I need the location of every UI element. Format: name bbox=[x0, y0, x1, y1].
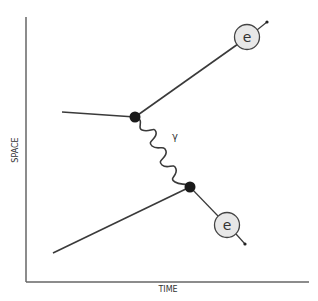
vertex-upper bbox=[130, 112, 141, 123]
y-axis-label: SPACE bbox=[11, 137, 20, 162]
electron-label-lower: e bbox=[223, 217, 232, 233]
incoming-electron-upper bbox=[62, 112, 135, 117]
arrow-tip-upper bbox=[265, 20, 268, 23]
arrow-tip-lower bbox=[243, 242, 246, 245]
feynman-diagram: e e γ SPACE TIME bbox=[0, 0, 318, 301]
outgoing-electron-lower bbox=[190, 187, 218, 216]
photon-label: γ bbox=[172, 131, 178, 142]
outgoing-electron-lower-tail bbox=[236, 234, 245, 244]
x-axis-label: TIME bbox=[157, 285, 177, 294]
incoming-electron-lower bbox=[53, 187, 190, 253]
photon-propagator bbox=[135, 117, 190, 187]
outgoing-electron-upper-tail bbox=[257, 22, 267, 30]
electron-label-upper: e bbox=[243, 29, 252, 45]
vertex-lower bbox=[185, 182, 196, 193]
outgoing-electron-upper bbox=[135, 44, 238, 117]
